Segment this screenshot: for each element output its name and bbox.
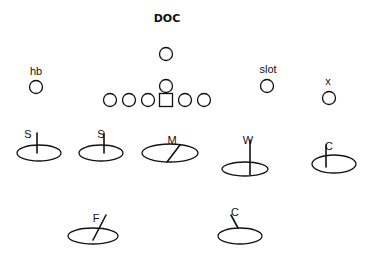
player-circle-icon bbox=[30, 81, 43, 94]
defender-label: F bbox=[93, 212, 100, 224]
defender-zone: F bbox=[68, 212, 118, 244]
lineman-circle-icon bbox=[104, 94, 117, 107]
zone-ellipse-icon bbox=[222, 162, 268, 176]
center-square-icon bbox=[160, 94, 173, 107]
defender-stem-icon bbox=[167, 145, 180, 162]
defender-zone: M bbox=[142, 134, 198, 162]
lineman-circle-icon bbox=[179, 94, 192, 107]
lineman-circle-icon bbox=[123, 94, 136, 107]
player-label: hb bbox=[30, 65, 42, 77]
defender-label: M bbox=[167, 134, 176, 146]
defender-zone: W bbox=[222, 134, 268, 176]
zone-ellipse-icon bbox=[79, 145, 123, 161]
player-label: slot bbox=[259, 63, 276, 75]
defender-label: S bbox=[24, 128, 31, 140]
qb-circle-icon bbox=[160, 80, 173, 93]
zone-ellipse-icon bbox=[312, 155, 356, 173]
back-circle-icon bbox=[160, 48, 173, 61]
lineman-circle-icon bbox=[142, 94, 155, 107]
defender-zone: C bbox=[218, 206, 262, 244]
zone-ellipse-icon bbox=[218, 228, 262, 244]
play-diagram: DOC hbslotx SSMWCFC bbox=[0, 0, 372, 264]
offense-formation: hbslotx bbox=[30, 48, 336, 107]
player-circle-icon bbox=[323, 92, 336, 105]
defender-zone: C bbox=[312, 140, 356, 173]
defender-label: W bbox=[243, 134, 254, 146]
defender-zone: S bbox=[17, 128, 61, 161]
player-circle-icon bbox=[261, 80, 274, 93]
defense-formation: SSMWCFC bbox=[17, 128, 356, 244]
defender-zone: S bbox=[79, 128, 123, 161]
play-title: DOC bbox=[154, 12, 181, 25]
zone-ellipse-icon bbox=[68, 228, 118, 244]
player-label: x bbox=[325, 75, 331, 87]
lineman-circle-icon bbox=[198, 94, 211, 107]
zone-ellipse-icon bbox=[17, 145, 61, 161]
